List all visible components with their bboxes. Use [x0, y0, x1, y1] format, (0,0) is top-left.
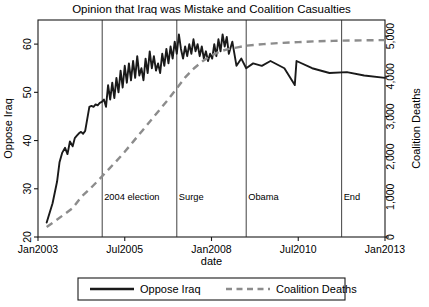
y2-axis-tick-label: 0 [384, 234, 396, 240]
chart-canvas: Opinion that Iraq was Mistake and Coalit… [0, 0, 429, 307]
x-axis-tick-label: Jan2013 [365, 243, 405, 255]
chart-title: Opinion that Iraq was Mistake and Coalit… [72, 3, 351, 15]
y2-axis-tick-label: 4,000 [384, 63, 396, 89]
x-axis-tick-label: Jul2010 [280, 243, 317, 255]
y2-axis-tick-label: 1,000 [384, 184, 396, 210]
y-axis-tick-label: 30 [21, 183, 33, 195]
x-axis-tick-label: Jan2003 [18, 243, 58, 255]
legend-label: Coalition Deaths [276, 283, 357, 295]
y-axis-tick-label: 40 [21, 135, 33, 147]
y2-axis-title: Coalition Deaths [410, 88, 422, 169]
legend-label: Oppose Iraq [140, 283, 201, 295]
x-axis-tick-label: Jan2008 [191, 243, 231, 255]
annotation-label: Obama [248, 192, 279, 202]
chart-figure: Opinion that Iraq was Mistake and Coalit… [0, 0, 429, 307]
y2-axis-tick-label: 5,000 [384, 23, 396, 49]
annotation-label: End [344, 192, 361, 202]
x-axis-title: date [201, 255, 222, 267]
y2-axis-tick-label: 2,000 [384, 143, 396, 169]
plot-frame [38, 20, 385, 237]
annotation-label: Surge [179, 192, 204, 202]
annotation-label: 2004 election [104, 192, 159, 202]
y-axis-title: Oppose Iraq [2, 98, 14, 159]
y-axis-tick-label: 50 [21, 86, 33, 98]
y-axis-tick-label: 60 [21, 38, 33, 50]
y2-axis-tick-label: 3,000 [384, 103, 396, 129]
y-axis-tick-label: 20 [21, 231, 33, 243]
x-axis-tick-label: Jul2005 [106, 243, 143, 255]
